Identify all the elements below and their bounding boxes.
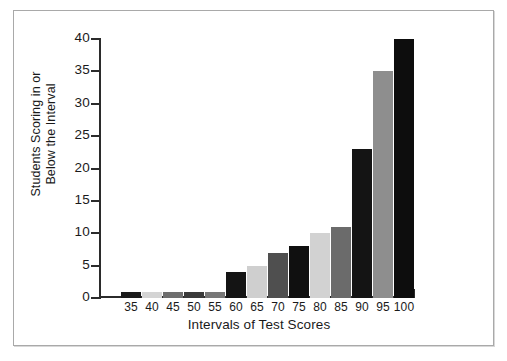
- bar-series: 35404550556065707580859095100: [14, 11, 495, 347]
- bar-40[interactable]: [142, 292, 162, 298]
- figure-frame: Students Scoring in or Below the Interva…: [13, 10, 494, 346]
- bar-75[interactable]: [289, 246, 309, 298]
- bar-60[interactable]: [226, 272, 246, 298]
- bar-85[interactable]: [331, 227, 351, 298]
- bar-45[interactable]: [163, 292, 183, 298]
- chart-plot-area: Students Scoring in or Below the Interva…: [14, 11, 495, 347]
- bar-35[interactable]: [121, 292, 141, 298]
- bar-65[interactable]: [247, 266, 267, 298]
- bar-50[interactable]: [184, 292, 204, 298]
- bar-100[interactable]: [394, 39, 414, 298]
- x-axis-tick-label-100: 100: [389, 300, 419, 314]
- bar-55[interactable]: [205, 292, 225, 298]
- bar-95[interactable]: [373, 71, 393, 298]
- bar-90[interactable]: [352, 149, 372, 298]
- bar-70[interactable]: [268, 253, 288, 298]
- bar-80[interactable]: [310, 233, 330, 298]
